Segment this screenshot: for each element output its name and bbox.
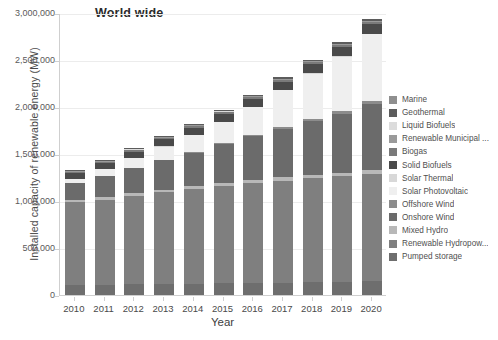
bar-segment[interactable] [124,168,144,193]
bar-column[interactable] [303,60,323,295]
bar-segment[interactable] [184,135,204,152]
legend-swatch-icon [389,253,397,261]
bar-column[interactable] [332,42,352,295]
bar-segment[interactable] [273,283,293,295]
bar-segment[interactable] [362,281,382,295]
bar-segment[interactable] [362,24,382,34]
bar-segment[interactable] [95,200,115,285]
legend-item[interactable]: Geothermal [389,106,498,119]
y-tick-label: 500,000 [0,243,55,253]
bar-segment[interactable] [95,169,115,176]
bar-segment[interactable] [95,285,115,295]
legend-item-label: Marine [402,93,427,106]
x-tick-mark [282,297,283,301]
bar-segment[interactable] [362,34,382,101]
bar-column[interactable] [214,110,234,295]
bar-segment[interactable] [362,174,382,282]
legend-item[interactable]: Pumped storage [389,250,498,263]
legend-item[interactable]: Onshore Wind [389,211,498,224]
legend-item[interactable]: Solar Photovoltaic [389,185,498,198]
bar-segment[interactable] [95,176,115,197]
legend-item[interactable]: Biogas [389,145,498,158]
bar-segment[interactable] [65,202,85,285]
bar-segment[interactable] [332,47,352,56]
legend-swatch-icon [389,174,397,182]
bar-column[interactable] [65,170,85,295]
bar-segment[interactable] [332,282,352,295]
legend-item[interactable]: Liquid Biofuels [389,119,498,132]
legend-swatch-icon [389,187,397,195]
bar-column[interactable] [124,148,144,295]
bar-segment[interactable] [332,114,352,173]
bar-segment[interactable] [243,183,263,283]
bar-segment[interactable] [124,196,144,284]
legend-item[interactable]: Renewable Municipal ... [389,132,498,145]
legend-swatch-icon [389,122,397,130]
bar-segment[interactable] [243,283,263,295]
bar-column[interactable] [273,77,293,295]
bar-segment[interactable] [214,283,234,295]
bar-segment[interactable] [243,99,263,107]
bar-segment[interactable] [214,114,234,122]
legend-item-label: Pumped storage [402,250,462,263]
legend-swatch-icon [389,161,397,169]
bar-column[interactable] [243,95,263,295]
y-tick-label: 1,000,000 [0,196,55,206]
legend-item[interactable]: Offshore Wind [389,198,498,211]
legend-item-label: Renewable Municipal ... [402,132,489,145]
legend-item-label: Offshore Wind [402,198,454,211]
bar-segment[interactable] [273,129,293,177]
bar-segment[interactable] [184,189,204,283]
bar-segment[interactable] [124,152,144,159]
legend-item-label: Liquid Biofuels [402,119,455,132]
bar-segment[interactable] [362,104,382,170]
y-tick-label: 2,000,000 [0,102,55,112]
legend-item-label: Renewable Hydropow... [402,237,488,250]
bar-segment[interactable] [332,57,352,112]
legend-item[interactable]: Mixed Hydro [389,224,498,237]
plot-area [59,14,386,296]
bar-column[interactable] [95,160,115,295]
bar-segment[interactable] [124,158,144,167]
bar-column[interactable] [184,124,204,295]
bar-segment[interactable] [154,160,174,189]
bar-segment[interactable] [273,82,293,90]
bar-segment[interactable] [273,181,293,283]
bar-segment[interactable] [154,284,174,295]
bar-segment[interactable] [65,285,85,295]
bar-segment[interactable] [154,192,174,284]
bar-column[interactable] [154,136,174,295]
bar-segment[interactable] [214,144,234,183]
bar-column[interactable] [362,19,382,295]
bar-segment[interactable] [243,107,263,135]
bar-segment[interactable] [184,153,204,186]
bar-segment[interactable] [303,121,323,175]
y-tick-label: 0 [0,290,55,300]
bar-segment[interactable] [303,178,323,282]
bar-segment[interactable] [243,136,263,180]
legend-item-label: Solar Thermal [402,172,453,185]
x-tick-mark [133,297,134,301]
legend-item[interactable]: Renewable Hydropow... [389,237,498,250]
bar-segment[interactable] [214,186,234,283]
legend-item[interactable]: Solid Biofuels [389,158,498,171]
legend-item[interactable]: Solar Thermal [389,172,498,185]
bar-segment[interactable] [65,183,85,200]
legend-item[interactable]: Marine [389,93,498,106]
bar-segment[interactable] [273,90,293,127]
x-tick-mark [371,297,372,301]
bar-segment[interactable] [154,139,174,146]
bar-segment[interactable] [184,128,204,135]
bar-segment[interactable] [332,176,352,282]
x-tick-mark [312,297,313,301]
bar-segment[interactable] [303,74,323,120]
bar-segment[interactable] [214,122,234,143]
bar-segment[interactable] [154,147,174,160]
x-tick-mark [252,297,253,301]
bar-segment[interactable] [124,284,144,295]
legend-swatch-icon [389,135,397,143]
bar-segment[interactable] [184,284,204,295]
legend-item-label: Mixed Hydro [402,224,448,237]
bar-segment[interactable] [303,282,323,295]
bar-segment[interactable] [303,64,323,73]
